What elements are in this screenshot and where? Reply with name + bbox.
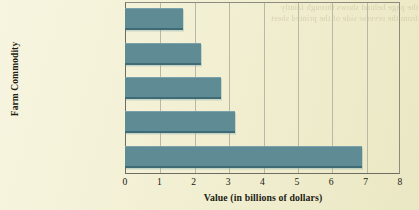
bar-chart-figure: the page behind shows through faintly fr… — [0, 0, 419, 210]
gridline — [367, 3, 368, 173]
x-axis-tick-label: 7 — [356, 176, 376, 187]
bar — [125, 77, 221, 99]
bar — [125, 8, 183, 30]
bar — [125, 111, 235, 133]
bar — [125, 146, 362, 168]
x-axis-tick-label: 3 — [218, 176, 238, 187]
x-axis-title: Value (in billions of dollars) — [125, 192, 401, 203]
bar — [125, 43, 201, 65]
x-axis-tick-label: 2 — [184, 176, 204, 187]
y-axis-title: Farm Commodity — [10, 17, 20, 141]
x-axis-tick-label: 4 — [253, 176, 273, 187]
x-axis-tick-label: 6 — [321, 176, 341, 187]
x-axis-tick-label: 1 — [149, 176, 169, 187]
x-axis-tick-label: 5 — [287, 176, 307, 187]
x-axis-tick-label: 8 — [390, 176, 410, 187]
x-axis-tick-label: 0 — [115, 176, 135, 187]
